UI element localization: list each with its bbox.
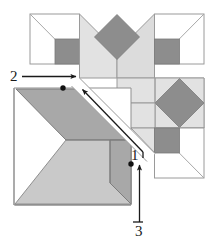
bottom-left-folded-flap: [14, 88, 131, 205]
folding-diagram-figure: 2 1 3: [0, 0, 217, 243]
label-3: 3: [135, 223, 143, 239]
top-right-square-panel: [155, 14, 205, 64]
bottom-right-dark-square: [155, 128, 180, 153]
label-2: 2: [10, 68, 18, 84]
top-right-dark-square: [155, 39, 180, 64]
top-left-dark-square: [55, 39, 80, 64]
diagram-canvas: 2 1 3: [0, 0, 217, 243]
top-left-square-panel: [30, 14, 80, 64]
label-1: 1: [131, 147, 139, 163]
bottom-right-square-panel: [155, 128, 205, 178]
flap-bottom-edge: [15, 205, 131, 206]
pivot-dot-upper: [60, 85, 65, 90]
